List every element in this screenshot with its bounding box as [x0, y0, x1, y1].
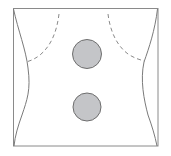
- left-dashed-rib-line: [26, 14, 59, 62]
- right-body-contour: [142, 9, 157, 146]
- right-dashed-rib-line: [108, 14, 145, 61]
- torso-diagram: [0, 0, 171, 156]
- frame-border: [14, 9, 159, 147]
- lower-electrode-pad: [73, 93, 101, 121]
- left-body-contour: [14, 9, 30, 146]
- diagram-svg: [0, 0, 171, 156]
- upper-electrode-pad: [73, 40, 102, 69]
